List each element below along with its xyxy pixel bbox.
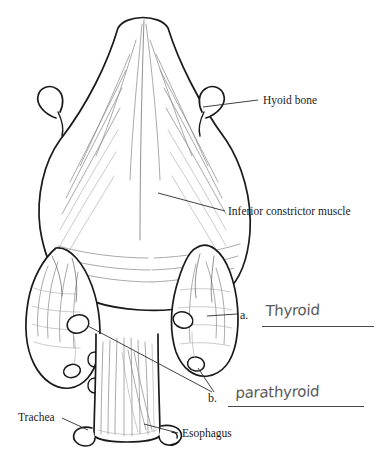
label-trachea: Trachea [18,412,55,424]
label-inferior-constrictor-muscle: Inferior constrictor muscle [228,206,351,218]
worksheet-page: .out { fill: #ffffff; stroke: #1a1a1a; s… [0,0,389,460]
answer-text-b[interactable]: parathyroid [235,384,320,401]
question-marker-b: b. [208,392,217,404]
label-esophagus: Esophagus [182,428,232,440]
leader-trachea [62,418,88,430]
hyoid-bone-left-horn [38,87,63,136]
answer-rule-a[interactable] [262,326,374,327]
anatomy-illustration: .out { fill: #ffffff; stroke: #1a1a1a; s… [0,0,389,460]
answer-text-a[interactable]: Thyroid [265,303,320,319]
answer-rule-b[interactable] [228,406,364,407]
question-marker-a: a. [240,309,248,321]
label-hyoid-bone: Hyoid bone [263,95,317,107]
